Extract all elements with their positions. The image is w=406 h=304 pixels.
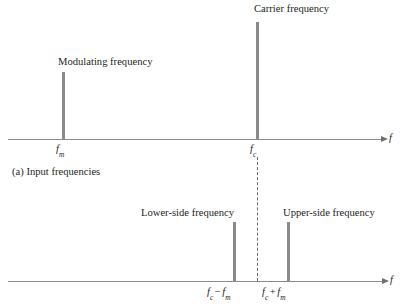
bottom-axis-line <box>8 281 383 282</box>
bottom-axis-arrowhead-icon <box>382 278 389 284</box>
tick-label-fm: fm <box>56 144 64 155</box>
tick-label-fc: fc <box>250 144 256 155</box>
spike-carrier-frequency <box>256 22 259 139</box>
spike-modulating-frequency <box>62 72 65 139</box>
tick-label-fc-minus-fm: fc−fm <box>207 287 230 298</box>
tick-upper-sub2: m <box>280 293 285 302</box>
top-axis-variable-label: f <box>389 133 392 144</box>
tick-lower-sub2: m <box>225 293 230 302</box>
spike-upper-side-frequency <box>287 222 290 281</box>
lower-side-frequency-label: Lower-side frequency <box>141 207 234 219</box>
tick-fc-sub: c <box>253 150 256 159</box>
upper-side-frequency-label: Upper-side frequency <box>283 207 375 219</box>
figure-am-frequency-spectrum: Carrier frequency Modulating frequency f… <box>0 0 406 304</box>
tick-lower-operator: − <box>213 286 222 297</box>
top-axis-line <box>8 139 382 140</box>
top-axis-arrowhead-icon <box>381 136 388 142</box>
bottom-axis-variable-label: f <box>390 275 393 286</box>
modulating-frequency-label: Modulating frequency <box>58 56 152 68</box>
tick-fm-sub: m <box>59 150 64 159</box>
tick-upper-sub1: c <box>265 293 268 302</box>
tick-upper-operator: + <box>268 286 277 297</box>
carrier-reference-dashed-line <box>257 157 258 281</box>
caption-input-frequencies: (a) Input frequencies <box>12 166 100 178</box>
tick-label-fc-plus-fm: fc+fm <box>262 287 285 298</box>
carrier-frequency-label: Carrier frequency <box>254 3 329 15</box>
tick-lower-sub1: c <box>210 293 213 302</box>
spike-lower-side-frequency <box>233 222 236 281</box>
